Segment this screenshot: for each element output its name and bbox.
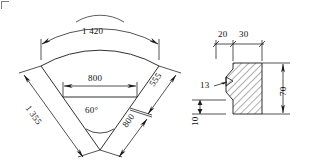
label-notch-leader: 13	[200, 81, 209, 90]
apex-angle-arc	[86, 129, 114, 133]
label-inner-chord-dimension: 800	[88, 74, 102, 83]
label-base-thickness: 10	[191, 117, 200, 126]
dim-top-20-30	[213, 40, 265, 61]
leader-13	[214, 82, 227, 86]
dim-outer-arc-1420	[41, 15, 159, 60]
section-hatched-profile	[226, 63, 262, 114]
label-apex-angle: 60°	[85, 106, 98, 115]
sector-geometry	[41, 50, 159, 150]
sector-outer-arc	[41, 50, 159, 66]
label-top-dimension-right: 30	[239, 30, 248, 39]
label-top-dimension-left: 20	[218, 30, 227, 39]
dim-base-10	[192, 100, 226, 114]
label-outer-arc-dimension: 1 420	[82, 27, 103, 36]
label-height-dimension: 70	[279, 87, 288, 96]
dim-inner-chord-800	[63, 82, 137, 97]
